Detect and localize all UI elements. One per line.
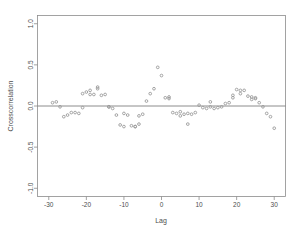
data-point xyxy=(81,92,84,95)
data-point xyxy=(213,107,216,110)
data-point xyxy=(235,88,238,91)
data-point xyxy=(51,101,54,104)
data-point xyxy=(160,74,163,77)
data-point xyxy=(100,94,103,97)
y-tick-label: -0.5 xyxy=(27,141,34,153)
data-point xyxy=(111,107,114,110)
data-point xyxy=(156,66,159,69)
data-point xyxy=(115,114,118,117)
data-point xyxy=(123,125,126,128)
data-point xyxy=(145,100,148,103)
x-tick-label: -20 xyxy=(82,201,92,208)
data-point xyxy=(89,89,92,92)
data-point xyxy=(66,114,69,117)
data-point xyxy=(138,115,141,118)
data-point xyxy=(258,101,261,104)
data-point xyxy=(232,94,235,97)
data-point xyxy=(262,105,265,108)
data-point xyxy=(247,95,250,98)
x-tick-label: -10 xyxy=(119,201,129,208)
data-point xyxy=(239,92,242,95)
data-point xyxy=(179,110,182,113)
data-point xyxy=(209,101,212,104)
y-axis-title: Crosscorrelation xyxy=(7,80,14,131)
data-point xyxy=(269,115,272,118)
data-point xyxy=(123,112,126,115)
plot-canvas: -1.0-0.50.00.51.0 -30-20-100102030 Lag C… xyxy=(0,0,304,232)
data-point xyxy=(190,113,193,116)
data-point xyxy=(130,124,133,127)
data-point xyxy=(119,124,122,127)
x-axis: -30-20-100102030 xyxy=(44,197,278,209)
data-point xyxy=(153,87,156,90)
data-point xyxy=(250,96,253,99)
data-point xyxy=(70,111,73,114)
data-point xyxy=(81,106,84,109)
data-point xyxy=(224,102,227,105)
y-tick-label: 0.5 xyxy=(27,60,34,69)
x-tick-label: 0 xyxy=(160,201,164,208)
data-point-series xyxy=(51,66,275,130)
data-point xyxy=(179,115,182,118)
data-point xyxy=(183,113,186,116)
data-point xyxy=(220,105,223,108)
data-point xyxy=(201,106,204,109)
data-point xyxy=(209,105,212,108)
x-tick-label: 30 xyxy=(271,201,279,208)
data-point xyxy=(89,93,92,96)
data-point xyxy=(273,127,276,130)
x-tick-label: -30 xyxy=(44,201,54,208)
data-point xyxy=(171,111,174,114)
data-point xyxy=(62,115,65,118)
data-point xyxy=(228,101,231,104)
data-point xyxy=(164,96,167,99)
data-point xyxy=(55,101,58,104)
data-point xyxy=(194,111,197,114)
y-tick-label: -1.0 xyxy=(27,182,34,194)
y-axis: -1.0-0.50.00.51.0 xyxy=(27,19,38,194)
data-point xyxy=(175,112,178,115)
x-tick-label: 10 xyxy=(195,201,203,208)
data-point xyxy=(126,114,129,117)
data-point xyxy=(77,112,80,115)
data-point xyxy=(239,89,242,92)
data-point xyxy=(205,107,208,110)
data-point xyxy=(104,93,107,96)
data-point xyxy=(59,105,62,108)
data-point xyxy=(243,89,246,92)
data-point xyxy=(198,104,201,107)
y-tick-label: 0.0 xyxy=(27,101,34,110)
data-point xyxy=(265,112,268,115)
data-point xyxy=(138,123,141,126)
data-point xyxy=(186,123,189,126)
data-point xyxy=(93,93,96,96)
data-point xyxy=(217,106,220,109)
data-point xyxy=(149,92,152,95)
data-point xyxy=(141,113,144,116)
x-axis-title: Lag xyxy=(155,217,167,225)
x-tick-label: 20 xyxy=(233,201,241,208)
y-tick-label: 1.0 xyxy=(27,19,34,28)
data-point xyxy=(85,91,88,94)
crosscorrelation-figure: -1.0-0.50.00.51.0 -30-20-100102030 Lag C… xyxy=(0,0,304,232)
data-point xyxy=(74,111,77,114)
data-point xyxy=(108,105,111,108)
data-point xyxy=(134,125,137,128)
data-point xyxy=(254,96,257,99)
data-point xyxy=(186,112,189,115)
